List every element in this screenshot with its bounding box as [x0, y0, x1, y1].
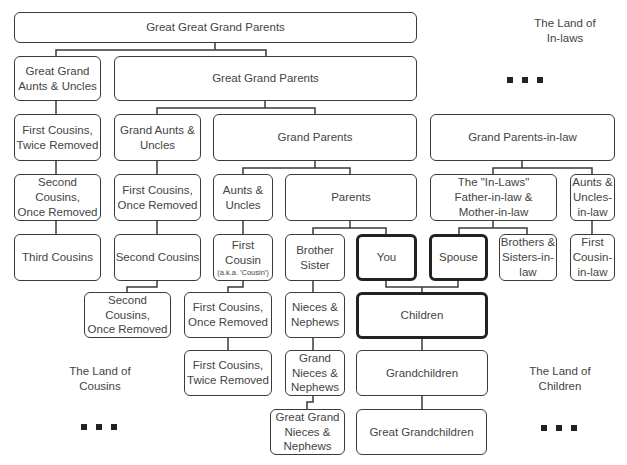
node-third-cousins: Third Cousins — [14, 234, 101, 281]
node-label: Grand Parents — [278, 130, 353, 145]
node-label: First Cousins, Twice Removed — [17, 123, 99, 153]
node-label: Grand Aunts & Uncles — [120, 123, 195, 153]
node-label: Third Cousins — [22, 250, 93, 265]
node-great-grand-nieces-nephews: Great Grand Nieces & Nephews — [270, 409, 345, 455]
node-label: Spouse — [439, 250, 478, 265]
node-in-laws: The "In-Laws" Father-in-law & Mother-in-… — [430, 174, 557, 221]
node-great-great-grand-parents: Great Great Grand Parents — [14, 12, 417, 43]
node-brothers-sisters-in-law: Brothers & Sisters-in- law — [499, 234, 557, 281]
region-label-children: The Land of Children — [520, 364, 600, 394]
node-label: First Cousins, Once Removed — [188, 300, 268, 330]
node-note: (a.k.a. 'Cousin') — [217, 268, 269, 277]
node-label: First Cousins, Twice Removed — [187, 358, 269, 388]
node-label: Grand Parents-in-law — [468, 130, 577, 145]
node-second-cousins: Second Cousins — [114, 234, 201, 281]
node-label: Brother Sister — [296, 243, 334, 273]
node-first-cousins-twice-removed-b: First Cousins, Twice Removed — [184, 350, 272, 396]
node-first-cousin: First Cousin (a.k.a. 'Cousin') — [213, 234, 273, 281]
node-great-grand-aunts-uncles: Great Grand Aunts & Uncles — [14, 56, 101, 101]
node-label: Great Grand Nieces & Nephews — [276, 410, 340, 455]
node-label: First Cousin- in-law — [573, 235, 613, 280]
node-second-cousins-once-removed: Second Cousins, Once Removed — [14, 174, 101, 221]
node-aunts-uncles: Aunts & Uncles — [213, 174, 273, 221]
node-parents: Parents — [285, 174, 417, 221]
node-label: Great Great Grand Parents — [146, 20, 285, 35]
node-label: Brothers & Sisters-in- law — [501, 235, 555, 280]
node-label: Great Grand Aunts & Uncles — [18, 64, 97, 94]
node-label: Children — [401, 308, 444, 323]
node-first-cousins-once-removed: First Cousins, Once Removed — [114, 174, 201, 221]
node-brother-sister: Brother Sister — [285, 234, 345, 281]
node-aunts-uncles-in-law: Aunts & Uncles- in-law — [570, 174, 615, 221]
ellipsis-icon-children — [541, 425, 577, 431]
node-grand-nieces-nephews: Grand Nieces & Nephews — [285, 350, 345, 396]
node-second-cousins-once-removed-b: Second Cousins, Once Removed — [84, 292, 171, 338]
node-label: Aunts & Uncles- in-law — [572, 175, 612, 220]
node-label: Nieces & Nephews — [291, 300, 339, 330]
node-grand-aunts-uncles: Grand Aunts & Uncles — [114, 114, 201, 161]
node-grandchildren: Grandchildren — [356, 350, 488, 396]
node-nieces-nephews: Nieces & Nephews — [285, 292, 345, 338]
node-label: Great Grand Parents — [212, 71, 319, 86]
region-label-in-laws: The Land of In-laws — [515, 16, 615, 46]
node-children: Children — [356, 292, 488, 339]
region-label-cousins: The Land of Cousins — [60, 364, 140, 394]
node-first-cousins-once-removed-b: First Cousins, Once Removed — [184, 292, 272, 338]
node-grand-parents-in-law: Grand Parents-in-law — [430, 114, 615, 161]
node-label: First Cousin — [225, 238, 261, 268]
ellipsis-icon-cousins — [81, 424, 117, 430]
ellipsis-icon-in-laws — [507, 77, 543, 83]
node-label: Aunts & Uncles — [223, 183, 263, 213]
node-you: You — [356, 234, 417, 281]
node-label: Second Cousins, Once Removed — [85, 293, 170, 338]
node-first-cousin-in-law: First Cousin- in-law — [570, 234, 615, 281]
node-label: Second Cousins, Once Removed — [15, 175, 100, 220]
node-first-cousins-twice-removed: First Cousins, Twice Removed — [14, 114, 101, 161]
node-great-grand-parents: Great Grand Parents — [114, 56, 417, 101]
node-grand-parents: Grand Parents — [213, 114, 417, 161]
node-label: Second Cousins — [116, 250, 200, 265]
node-label: Grand Nieces & Nephews — [291, 351, 339, 396]
node-label: First Cousins, Once Removed — [118, 183, 198, 213]
node-spouse: Spouse — [429, 234, 488, 281]
node-great-grandchildren: Great Grandchildren — [356, 409, 487, 455]
node-label: Great Grandchildren — [369, 425, 473, 440]
node-label: You — [377, 250, 396, 265]
node-label: The "In-Laws" Father-in-law & Mother-in-… — [455, 175, 533, 220]
node-label: Grandchildren — [386, 366, 458, 381]
node-label: Parents — [331, 190, 371, 205]
family-tree-diagram: Great Great Grand Parents The Land of In… — [0, 0, 627, 465]
